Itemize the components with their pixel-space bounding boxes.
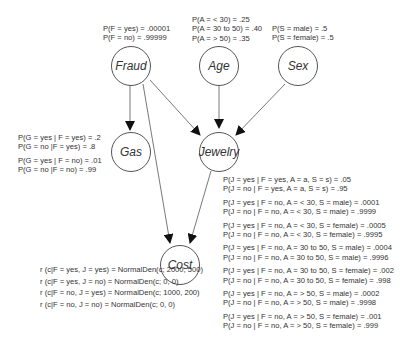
cpt-line: P(J = yes | F = yes, A = a, S = s) = .05 (223, 175, 394, 184)
cpt-line: P(F = no) = .99999 (103, 33, 170, 42)
node-gas[interactable]: Gas (111, 132, 151, 172)
cpt-line: P(J = no | F = no, A = 30 to 50, S = fem… (223, 276, 394, 285)
cpt-jewelry: P(J = yes | F = yes, A = a, S = s) = .05… (223, 175, 394, 331)
cpt-line: P(J = yes | F = no, A = > 50, S = male) … (223, 289, 394, 298)
node-age-label: Age (208, 59, 229, 73)
cpt-line: P(J = yes | F = no, A = 30 to 50, S = ma… (223, 243, 394, 252)
edge-fraud-jewelry (150, 80, 200, 135)
cpt-gas: P(G = yes | F = yes) = .2 P(G = no |F = … (18, 133, 102, 175)
node-jewelry-label: Jewelry (199, 145, 240, 159)
cpt-line: P(J = no | F = no, A = > 50, S = male) =… (223, 298, 394, 307)
cpt-cost: r (c|F = yes, J = yes) = NormalDen(c; 20… (40, 264, 203, 310)
cpt-line: P(A = < 30) = .25 (192, 15, 262, 24)
cpt-line: P(J = yes | F = no, A = 30 to 50, S = fe… (223, 266, 394, 275)
node-fraud[interactable]: Fraud (111, 46, 151, 86)
cpt-line: P(A = 30 to 50) = .40 (192, 24, 262, 33)
cpt-age: P(A = < 30) = .25 P(A = 30 to 50) = .40 … (192, 15, 262, 43)
cpt-line: r (c|F = no, J = no) = NormalDen(c; 0, 0… (40, 299, 203, 311)
cpt-line: P(G = no |F = no) = .99 (18, 165, 102, 174)
cpt-line: P(J = no | F = no, A = 30 to 50, S = mal… (223, 253, 394, 262)
edge-jewelry-cost (190, 171, 211, 243)
node-sex-label: Sex (288, 59, 309, 73)
cpt-line: P(J = yes | F = no, A = > 50, S = female… (223, 312, 394, 321)
cpt-line: P(J = yes | F = no, A = < 30, S = male) … (223, 198, 394, 207)
node-fraud-label: Fraud (115, 59, 146, 73)
cpt-line: r (c|F = yes, J = yes) = NormalDen(c; 20… (40, 264, 203, 276)
cpt-line: P(J = no | F = no, A = < 30, S = female)… (223, 230, 394, 239)
cpt-line: P(J = no | F = no, A = > 50, S = female)… (223, 321, 394, 330)
node-jewelry[interactable]: Jewelry (199, 132, 239, 172)
node-gas-label: Gas (120, 145, 142, 159)
cpt-line: P(S = male) = .5 (272, 24, 334, 33)
cpt-line: P(S = female) = .5 (272, 33, 334, 42)
cpt-line: P(G = yes | F = yes) = .2 (18, 133, 102, 142)
cpt-line: r (c|F = no, J = yes) = NormalDen(c; 100… (40, 287, 203, 299)
cpt-line: r (c|F = yes, J = no) = NormalDen(c; 0, … (40, 276, 203, 288)
cpt-sex: P(S = male) = .5 P(S = female) = .5 (272, 24, 334, 43)
edge-sex-jewelry (236, 84, 285, 135)
cpt-line: P(J = no | F = yes, A = a, S = s) = .95 (223, 184, 394, 193)
cpt-line: P(G = no |F = yes) = .8 (18, 142, 102, 151)
cpt-line: P(A = > 50) = .35 (192, 34, 262, 43)
node-age[interactable]: Age (199, 46, 239, 86)
cpt-line: P(J = yes | F = no, A = < 30, S = female… (223, 221, 394, 230)
cpt-line: P(G = yes | F = no) = .01 (18, 156, 102, 165)
node-sex[interactable]: Sex (278, 46, 318, 86)
cpt-line: P(J = no | F = no, A = < 30, S = male) =… (223, 207, 394, 216)
cpt-line: P(F = yes) = .00001 (103, 24, 170, 33)
cpt-fraud: P(F = yes) = .00001 P(F = no) = .99999 (103, 24, 170, 43)
